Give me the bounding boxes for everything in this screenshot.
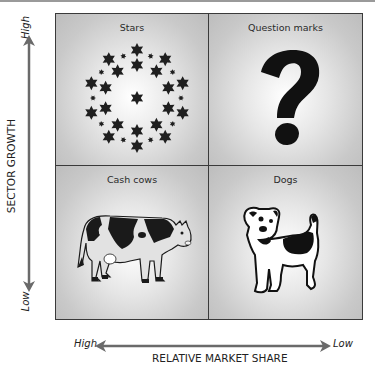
matrix-grid: Stars	[55, 13, 363, 320]
y-axis-title: SECTOR GROWTH	[5, 119, 17, 213]
cow-icon	[76, 211, 194, 291]
quadrant-dogs: Dogs	[209, 166, 362, 319]
question-mark-icon	[257, 50, 323, 146]
dog-icon	[239, 205, 323, 297]
top-rule	[0, 0, 375, 2]
quadrant-label-dogs: Dogs	[209, 174, 362, 185]
stars-ring-icon	[56, 14, 209, 166]
y-axis-double-arrow-icon	[23, 35, 35, 292]
quadrant-label-question-marks: Question marks	[209, 22, 362, 33]
x-axis-double-arrow-icon	[95, 340, 331, 352]
y-axis-low-label: Low	[20, 292, 31, 312]
quadrant-stars: Stars	[56, 14, 209, 166]
x-axis-low-label: Low	[333, 338, 353, 349]
quadrant-cash-cows: Cash cows	[56, 166, 209, 319]
quadrant-label-cash-cows: Cash cows	[56, 174, 208, 185]
x-axis-title: RELATIVE MARKET SHARE	[152, 352, 288, 364]
x-axis-high-label: High	[74, 338, 97, 349]
quadrant-question-marks: Question marks	[209, 14, 362, 166]
